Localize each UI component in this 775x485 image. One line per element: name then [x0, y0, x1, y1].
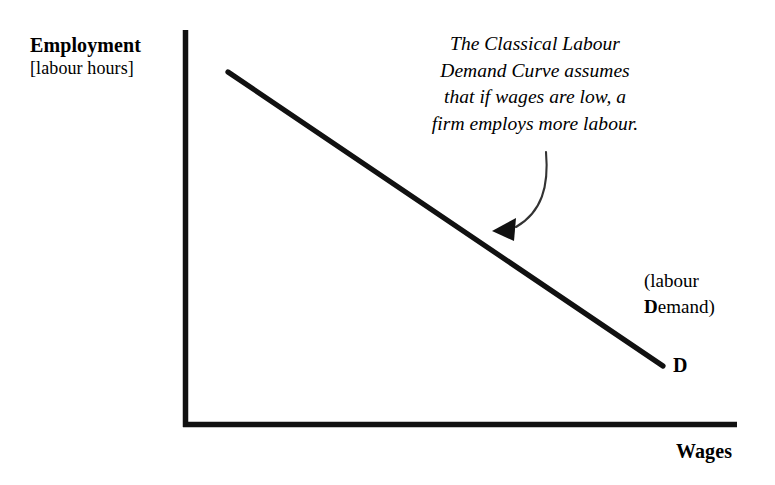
annotation-line-1: The Classical Labour [385, 31, 685, 58]
annotation-line-4: firm employs more labour. [385, 111, 685, 138]
annotation-note: The Classical Labour Demand Curve assume… [385, 31, 685, 137]
curve-legend-bold-d: D [644, 296, 658, 317]
x-axis-title: Wages [676, 440, 732, 463]
curve-legend-line-1: (labour [644, 268, 715, 294]
curve-legend-line-2: Demand) [644, 294, 715, 320]
economics-diagram: Employment [labour hours] Wages The Clas… [0, 0, 775, 485]
y-axis-units: [labour hours] [30, 57, 182, 80]
annotation-arrow-shaft [516, 152, 547, 227]
annotation-line-2: Demand Curve assumes [385, 58, 685, 85]
curve-legend: (labour Demand) [644, 268, 715, 320]
curve-legend-rest: emand) [658, 296, 715, 317]
y-axis-title: Employment [30, 33, 182, 57]
annotation-arrow-head [492, 218, 516, 241]
demand-curve-end-label: D [673, 354, 687, 377]
y-axis-label-group: Employment [labour hours] [30, 33, 182, 80]
annotation-line-3: that if wages are low, a [385, 84, 685, 111]
